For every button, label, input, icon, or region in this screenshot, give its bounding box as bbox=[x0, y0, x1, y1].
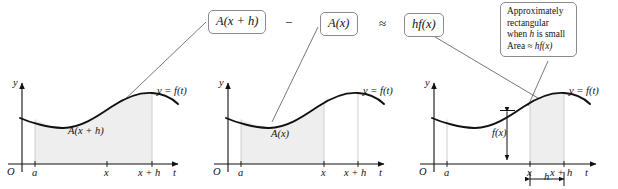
tick-label-xh-right: x + h bbox=[550, 168, 572, 179]
shaded-strip-right bbox=[530, 93, 564, 164]
panel-middle-plot bbox=[214, 83, 384, 172]
y-axis-label-left: y bbox=[13, 78, 18, 89]
tick-label-xh-middle: x + h bbox=[344, 168, 366, 179]
tick-label-xh-left: x + h bbox=[138, 168, 160, 179]
width-label-h-right: h bbox=[544, 172, 549, 183]
tick-label-a-left: a bbox=[32, 168, 37, 179]
t-axis-label-right: t bbox=[585, 168, 588, 179]
t-axis-label-left: t bbox=[173, 168, 176, 179]
region-label-middle: A(x) bbox=[271, 129, 289, 140]
callout-line-1: Approximately bbox=[507, 6, 571, 18]
region-label-left: A(x + h) bbox=[68, 126, 104, 137]
origin-label-middle: O bbox=[213, 167, 221, 178]
callout-line-4: Area ≈ hf(x) bbox=[507, 41, 571, 53]
figure-root: A(x + h) − A(x) ≈ hf(x) Approximately re… bbox=[0, 0, 618, 189]
callout-annotation: Approximately rectangular when h is smal… bbox=[500, 2, 577, 57]
equation-operator-minus: − bbox=[285, 15, 292, 31]
tick-label-x-middle: x bbox=[321, 168, 326, 179]
height-label-fx-right: f(x) bbox=[492, 128, 507, 139]
leader-lines bbox=[118, 22, 553, 122]
tick-label-a-middle: a bbox=[238, 168, 243, 179]
callout-line-2: rectangular bbox=[507, 18, 571, 30]
equation-term-1: A(x + h) bbox=[208, 10, 266, 34]
equation-operator-approx: ≈ bbox=[379, 16, 386, 32]
callout-line-3: when h is small bbox=[507, 29, 571, 41]
tick-label-a-right: a bbox=[444, 168, 449, 179]
tick-label-x-right: x bbox=[527, 168, 532, 179]
equation-term-3: hf(x) bbox=[404, 13, 444, 37]
curve-label-left: y = f(t) bbox=[157, 86, 187, 97]
leader-term2 bbox=[272, 27, 318, 122]
y-axis-label-right: y bbox=[425, 78, 430, 89]
curve-label-right: y = f(t) bbox=[569, 86, 599, 97]
tick-label-x-left: x bbox=[104, 168, 109, 179]
origin-label-left: O bbox=[7, 167, 15, 178]
curve-label-middle: y = f(t) bbox=[363, 86, 393, 97]
y-axis-label-middle: y bbox=[219, 78, 224, 89]
origin-label-right: O bbox=[419, 167, 427, 178]
equation-term-2: A(x) bbox=[320, 12, 358, 36]
t-axis-label-middle: t bbox=[379, 168, 382, 179]
